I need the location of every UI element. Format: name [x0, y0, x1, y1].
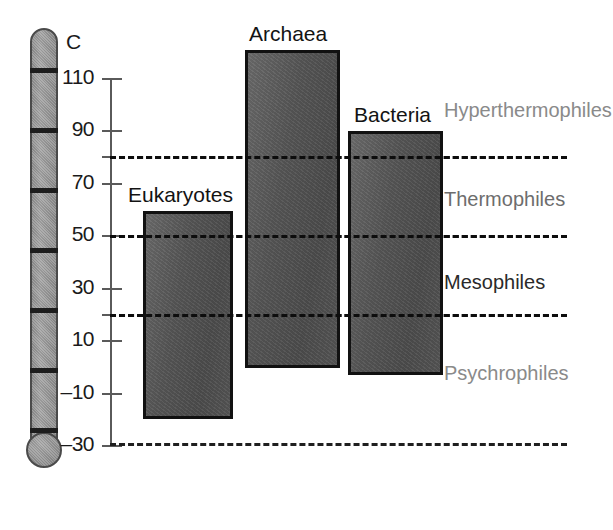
- class-label-psychrophiles: Psychrophiles: [444, 362, 569, 385]
- thermometer-stem: [30, 28, 58, 458]
- bacteria-bar: [348, 131, 443, 375]
- thermometer-segment-mark: [30, 68, 58, 73]
- class-label-thermophiles: Thermophiles: [444, 188, 565, 211]
- archaea-bar: [245, 50, 340, 368]
- unit-label: C: [66, 30, 81, 54]
- thermophile-mesophile-boundary-overlay: [110, 235, 567, 238]
- axis-tick--10: [102, 393, 122, 395]
- axis-tick-70: [102, 183, 122, 185]
- bacteria-label: Bacteria: [354, 103, 431, 127]
- axis-tick-10: [102, 340, 122, 342]
- axis-line: [110, 78, 112, 445]
- axis-tick-110: [102, 78, 122, 80]
- class-label-mesophiles: Mesophiles: [444, 271, 545, 294]
- thermometer-segment-mark: [30, 188, 58, 193]
- thermometer-segment-mark: [30, 428, 58, 433]
- archaea-label: Archaea: [249, 22, 327, 46]
- class-label-hyperthermophiles: Hyperthermophiles: [444, 99, 612, 122]
- axis-tick-90: [102, 130, 122, 132]
- hyperthermophile-thermophile-boundary-overlay: [110, 156, 567, 159]
- eukaryotes-label: Eukaryotes: [128, 183, 233, 207]
- thermometer-segment-mark: [30, 128, 58, 133]
- axis-tick-30: [102, 288, 122, 290]
- mesophile-psychrophile-boundary-overlay: [110, 314, 567, 317]
- thermometer-segment-mark: [30, 308, 58, 313]
- thermometer-bulb: [26, 432, 62, 468]
- temperature-range-diagram: C 1109070503010–10–30 EukaryotesArchaeaB…: [0, 0, 613, 530]
- lower-limit-boundary: [110, 443, 567, 446]
- thermometer-segment-mark: [30, 248, 58, 253]
- celsius-thermometer: [26, 28, 62, 500]
- thermometer-segment-mark: [30, 368, 58, 373]
